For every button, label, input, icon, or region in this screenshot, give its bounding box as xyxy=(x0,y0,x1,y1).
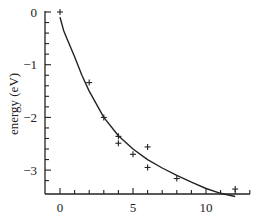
data-point-plus-marker xyxy=(57,9,63,15)
data-point-plus-marker xyxy=(130,151,136,157)
energy-chart: 0−1−2−30510 energy (eV) xyxy=(0,0,256,221)
y-tick-label: 0 xyxy=(31,5,38,20)
data-point-plus-marker xyxy=(86,80,92,86)
data-point-plus-marker xyxy=(115,140,121,146)
y-tick-label: −2 xyxy=(23,110,37,125)
y-axis-label: energy (eV) xyxy=(6,73,21,135)
y-tick-label: −3 xyxy=(23,163,37,178)
x-tick-label: 5 xyxy=(130,200,137,215)
data-point-plus-marker xyxy=(232,186,238,192)
x-tick-label: 10 xyxy=(200,200,213,215)
x-tick-label: 0 xyxy=(57,200,64,215)
data-point-plus-marker xyxy=(145,144,151,150)
axes: 0−1−2−30510 xyxy=(23,5,250,216)
plot-area xyxy=(57,9,238,197)
y-tick-label: −1 xyxy=(23,57,37,72)
data-point-plus-marker xyxy=(145,164,151,170)
